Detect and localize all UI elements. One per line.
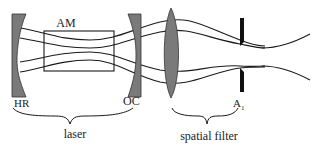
hr-mirror-icon (12, 14, 26, 97)
aperture-label: A1 (233, 97, 245, 112)
spatial-filter-brace (172, 108, 238, 124)
oc-mirror-icon (128, 14, 141, 97)
beam-output-lower (262, 66, 310, 80)
lens-icon (164, 8, 178, 98)
aperture-icon (240, 18, 244, 92)
am-label: AM (56, 16, 76, 30)
hr-label: HR (14, 97, 30, 109)
laser-brace (13, 108, 133, 124)
beam-lower-inner (20, 52, 265, 71)
beam-upper-inner (20, 30, 265, 48)
gain-medium-box (44, 31, 114, 71)
laser-group-label: laser (64, 127, 87, 141)
beam-output-upper (262, 34, 310, 48)
aperture-lower-blade (240, 68, 244, 92)
oc-label: OC (123, 94, 140, 108)
optical-diagram: AM HR OC A1 laser spatial filter (0, 0, 315, 152)
aperture-upper-blade (240, 18, 244, 46)
beam-lower-outer (20, 60, 265, 83)
spatial-filter-group-label: spatial filter (180, 129, 238, 143)
